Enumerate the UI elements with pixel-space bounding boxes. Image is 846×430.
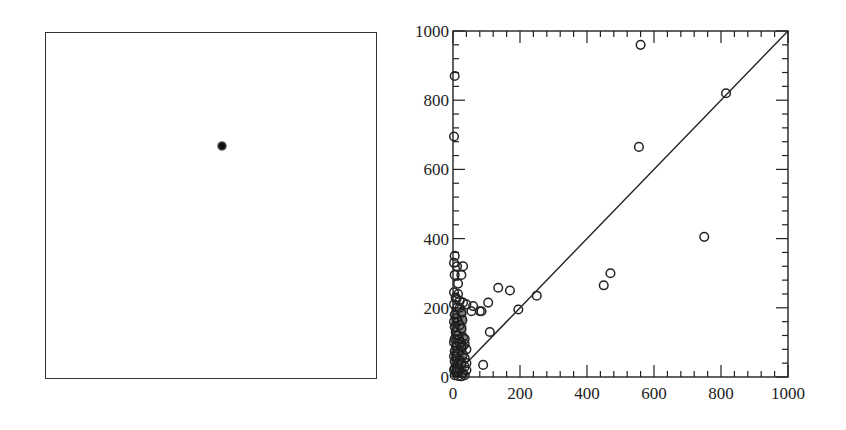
scatter-plot: 0200400600800100002004006008001000	[0, 0, 846, 430]
data-point-marker	[450, 132, 459, 141]
x-tick-label: 400	[574, 384, 600, 403]
y-tick-label: 400	[424, 230, 450, 249]
y-tick-label: 800	[424, 91, 450, 110]
data-point-marker	[506, 286, 515, 295]
x-tick-label: 200	[507, 384, 533, 403]
data-point-marker	[722, 89, 731, 98]
data-point-marker	[484, 298, 493, 307]
data-point-marker	[494, 283, 503, 292]
data-point-marker	[479, 361, 488, 370]
data-point-marker	[599, 281, 608, 290]
data-point-marker	[532, 291, 541, 300]
y-tick-label: 200	[424, 299, 450, 318]
dense-point-cluster	[451, 308, 466, 377]
data-point-marker	[700, 233, 709, 242]
y-tick-label: 0	[441, 368, 450, 387]
x-tick-label: 1000	[771, 384, 805, 403]
data-points	[450, 41, 731, 381]
identity-line	[466, 31, 788, 363]
x-tick-label: 800	[708, 384, 734, 403]
y-equals-x-line	[466, 31, 788, 363]
y-tick-label: 1000	[415, 22, 449, 41]
data-point-marker	[459, 262, 468, 271]
data-point-marker	[606, 269, 615, 278]
data-point-marker	[636, 41, 645, 50]
data-point-marker	[486, 328, 495, 337]
x-tick-label: 0	[449, 384, 458, 403]
x-tick-label: 600	[641, 384, 667, 403]
y-tick-label: 600	[424, 160, 450, 179]
tick-labels: 0200400600800100002004006008001000	[415, 22, 805, 403]
data-point-marker	[635, 143, 644, 152]
